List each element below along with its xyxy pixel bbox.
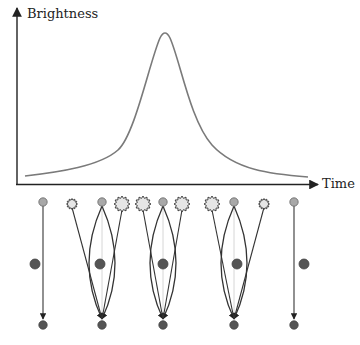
y-axis-label: Brightness — [27, 6, 98, 21]
observer-icon — [39, 321, 47, 329]
source-star-icon — [159, 198, 167, 206]
diagram-canvas — [0, 0, 360, 345]
lens-star-icon — [232, 259, 242, 269]
lens-star-icon — [158, 259, 168, 269]
source-star-icon — [39, 198, 47, 206]
lens-star-icon — [299, 259, 309, 269]
light-curve — [25, 33, 308, 177]
lensing-panel-3 — [135, 196, 190, 329]
lensed-image-burst-icon — [114, 196, 130, 212]
lensed-image-burst-icon — [204, 196, 220, 212]
observer-icon — [159, 321, 167, 329]
microlensing-diagram: Brightness Time — [0, 0, 360, 345]
lensing-panel-4 — [204, 196, 270, 329]
lensing-panel-5 — [290, 198, 309, 329]
apparent-ray — [212, 210, 234, 319]
lensing-panels — [30, 196, 309, 329]
observer-icon — [290, 321, 298, 329]
lensed-image-burst-icon — [135, 196, 151, 212]
lensed-image-burst-icon — [174, 196, 190, 212]
lens-star-icon — [30, 259, 40, 269]
x-axis-label: Time — [322, 176, 355, 191]
source-star-icon — [98, 198, 106, 206]
lensing-panel-1 — [30, 198, 47, 329]
lens-star-icon — [95, 259, 105, 269]
lensing-panel-2 — [67, 196, 131, 329]
lensed-image-burst-icon — [67, 199, 78, 210]
lensed-image-burst-icon — [259, 199, 270, 210]
source-star-icon — [230, 198, 238, 206]
observer-icon — [98, 321, 106, 329]
source-star-icon — [290, 198, 298, 206]
observer-icon — [230, 321, 238, 329]
